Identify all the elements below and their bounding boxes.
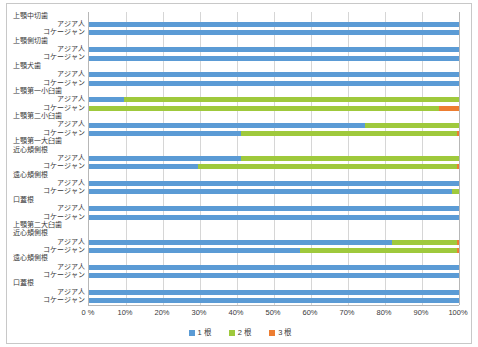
category-group-label: 上顎側切歯 <box>13 37 48 45</box>
bar-segment-series-1[interactable] <box>89 273 459 278</box>
bar-row[interactable] <box>89 47 459 52</box>
legend-label: 3 根 <box>278 326 291 337</box>
x-axis-line <box>88 305 459 306</box>
bar-row[interactable] <box>89 240 459 245</box>
bar-row[interactable] <box>89 265 459 270</box>
category-bar-label: アジア人 <box>57 120 85 128</box>
bar-row[interactable] <box>89 22 459 27</box>
category-bar-label: アジア人 <box>57 95 85 103</box>
bar-segment-series-1[interactable] <box>89 298 459 303</box>
bar-segment-series-3[interactable] <box>457 164 459 169</box>
plot-area <box>88 12 459 305</box>
category-group-label: 上顎犬歯 <box>13 62 41 70</box>
gridline-100 <box>459 12 460 305</box>
legend-item-2[interactable]: 2 根 <box>229 326 251 337</box>
category-bar-label: アジア人 <box>57 179 85 187</box>
bar-row[interactable] <box>89 215 459 220</box>
bar-row[interactable] <box>89 164 459 169</box>
bar-segment-series-1[interactable] <box>89 47 459 52</box>
bar-row[interactable] <box>89 131 459 136</box>
legend-label: 2 根 <box>238 326 251 337</box>
bar-segment-series-1[interactable] <box>89 30 459 35</box>
bar-segment-series-2[interactable] <box>241 156 459 161</box>
bar-row[interactable] <box>89 56 459 61</box>
bar-segment-series-2[interactable] <box>365 123 459 128</box>
bar-segment-series-2[interactable] <box>89 106 439 111</box>
category-bar-label: コケージャン <box>43 129 85 137</box>
category-bar-label: アジア人 <box>57 154 85 162</box>
legend-swatch-icon <box>269 330 275 336</box>
bar-segment-series-1[interactable] <box>89 72 459 77</box>
category-group-label: 上顎第一大臼歯 <box>13 137 62 145</box>
bar-segment-series-2[interactable] <box>452 189 459 194</box>
bar-row[interactable] <box>89 189 459 194</box>
x-tick-label-100: 100% <box>448 308 467 317</box>
category-bar-label: アジア人 <box>57 238 85 246</box>
bar-segment-series-2[interactable] <box>198 164 457 169</box>
bar-segment-series-2[interactable] <box>124 97 459 102</box>
bar-segment-series-1[interactable] <box>89 181 459 186</box>
x-tick-label-40: 40% <box>228 308 243 317</box>
bar-segment-series-1[interactable] <box>89 22 459 27</box>
bar-row[interactable] <box>89 290 459 295</box>
category-group-label: 遠心頬側根 <box>13 254 48 262</box>
bar-segment-series-1[interactable] <box>89 248 300 253</box>
category-group-label: 上顎第二小臼歯 <box>13 112 62 120</box>
category-group-label: 近心頬側根 <box>13 229 48 237</box>
bar-segment-series-1[interactable] <box>89 97 124 102</box>
bar-segment-series-2[interactable] <box>241 131 457 136</box>
bar-segment-series-1[interactable] <box>89 156 241 161</box>
bar-segment-series-1[interactable] <box>89 240 392 245</box>
bar-row[interactable] <box>89 106 459 111</box>
category-bar-label: コケージャン <box>43 28 85 36</box>
bar-segment-series-3[interactable] <box>457 240 459 245</box>
bar-segment-series-1[interactable] <box>89 56 459 61</box>
x-tick-label-70: 70% <box>339 308 354 317</box>
x-tick-label-60: 60% <box>302 308 317 317</box>
bar-row[interactable] <box>89 206 459 211</box>
category-bar-label: アジア人 <box>57 204 85 212</box>
bar-row[interactable] <box>89 123 459 128</box>
bar-segment-series-3[interactable] <box>457 248 459 253</box>
bar-row[interactable] <box>89 248 459 253</box>
bar-row[interactable] <box>89 298 459 303</box>
bar-segment-series-1[interactable] <box>89 81 459 86</box>
bar-row[interactable] <box>89 181 459 186</box>
bar-segment-series-1[interactable] <box>89 265 459 270</box>
bar-segment-series-1[interactable] <box>89 215 459 220</box>
x-axis-tick-labels: 0 %10%20%30%40%50%60%70%80%90%100% <box>7 308 473 322</box>
chart-legend: 1 根2 根3 根 <box>7 326 473 337</box>
legend-label: 1 根 <box>198 326 211 337</box>
bar-row[interactable] <box>89 72 459 77</box>
bar-segment-series-1[interactable] <box>89 290 459 295</box>
bar-segment-series-1[interactable] <box>89 206 459 211</box>
bar-segment-series-2[interactable] <box>392 240 457 245</box>
bar-row[interactable] <box>89 81 459 86</box>
bar-row[interactable] <box>89 156 459 161</box>
x-tick-label-20: 20% <box>154 308 169 317</box>
category-bar-label: コケージャン <box>43 296 85 304</box>
category-bar-label: アジア人 <box>57 288 85 296</box>
category-axis: 上顎中切歯アジア人コケージャン上顎側切歯アジア人コケージャン上顎犬歯アジア人コケ… <box>11 12 87 305</box>
bar-row[interactable] <box>89 273 459 278</box>
category-bar-label: コケージャン <box>43 271 85 279</box>
category-bar-label: アジア人 <box>57 45 85 53</box>
category-bar-label: コケージャン <box>43 79 85 87</box>
legend-item-1[interactable]: 1 根 <box>189 326 211 337</box>
bar-segment-series-3[interactable] <box>457 131 459 136</box>
bar-segment-series-1[interactable] <box>89 164 198 169</box>
bar-row[interactable] <box>89 30 459 35</box>
category-bar-label: アジア人 <box>57 20 85 28</box>
bar-segment-series-2[interactable] <box>300 248 457 253</box>
bar-row[interactable] <box>89 97 459 102</box>
category-group-label: 口蓋根 <box>13 279 34 287</box>
x-tick-label-80: 80% <box>376 308 391 317</box>
category-bar-label: コケージャン <box>43 246 85 254</box>
category-group-label: 上顎第二大臼歯 <box>13 221 62 229</box>
bar-segment-series-1[interactable] <box>89 131 241 136</box>
category-bar-label: コケージャン <box>43 53 85 61</box>
legend-item-3[interactable]: 3 根 <box>269 326 291 337</box>
bar-segment-series-3[interactable] <box>439 106 459 111</box>
bar-segment-series-1[interactable] <box>89 189 452 194</box>
bar-segment-series-1[interactable] <box>89 123 365 128</box>
